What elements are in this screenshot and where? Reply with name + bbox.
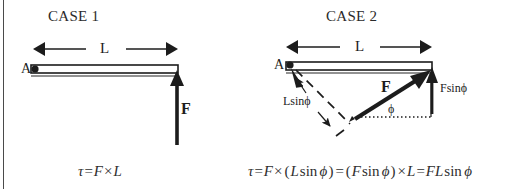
case2-pivot-label: A bbox=[274, 57, 284, 73]
case1-beam bbox=[31, 65, 178, 76]
case2-eq-length-1: L bbox=[290, 163, 298, 179]
torque-figure: CASE 1 CASE 2 bbox=[0, 0, 521, 189]
case2-eq-phi-3: ϕ bbox=[464, 163, 472, 179]
case2-eq-sin-2: sin bbox=[361, 163, 381, 179]
case2-eq-close-paren-2: ) bbox=[390, 163, 397, 179]
case1-pivot-label: A bbox=[21, 61, 31, 77]
case2-eq-sin-3: sin bbox=[443, 163, 463, 179]
case1-eq-force: F bbox=[94, 163, 103, 179]
case2-eq-phi-2: ϕ bbox=[382, 163, 390, 179]
case2-angle-label: ϕ bbox=[388, 102, 394, 117]
case1-pivot-dot bbox=[31, 65, 38, 72]
case2-moment-arm-leader-down bbox=[318, 112, 330, 126]
case2-eq-times-1: × bbox=[273, 163, 283, 179]
case2-eq-equals-2: = bbox=[334, 163, 344, 179]
case1-eq-length: L bbox=[113, 163, 121, 179]
case2-eq-equals-3: = bbox=[415, 163, 425, 179]
case2-eq-open-paren-2: ( bbox=[345, 163, 352, 179]
case1-eq-equals: = bbox=[83, 163, 93, 179]
case2-eq-force-1: F bbox=[264, 163, 273, 179]
case2-perpendicular-force-label: Fsinϕ bbox=[440, 81, 467, 96]
case1-length-label: L bbox=[100, 40, 109, 57]
case1-force-label: F bbox=[181, 100, 191, 118]
case2-beam bbox=[286, 62, 432, 73]
case2-eq-equals-1: = bbox=[253, 163, 263, 179]
case2-eq-times-2: × bbox=[397, 163, 407, 179]
case2-moment-arm-label: Lsinϕ bbox=[283, 94, 311, 109]
case2-eq-force-2: F bbox=[352, 163, 361, 179]
case2-moment-arm-tick bbox=[336, 130, 344, 136]
case1-equation: τ=F×L bbox=[78, 163, 122, 180]
case2-eq-fl: FL bbox=[426, 163, 444, 179]
case2-equation: τ=F×(Lsin ϕ)=(Fsin ϕ)×L=FLsin ϕ bbox=[248, 163, 472, 180]
case1-eq-times: × bbox=[103, 163, 113, 179]
case2-eq-sin-1: sin bbox=[299, 163, 319, 179]
case2-length-label: L bbox=[355, 38, 364, 55]
case2-pivot-dot bbox=[286, 61, 293, 68]
case2-force-label: F bbox=[381, 78, 391, 96]
